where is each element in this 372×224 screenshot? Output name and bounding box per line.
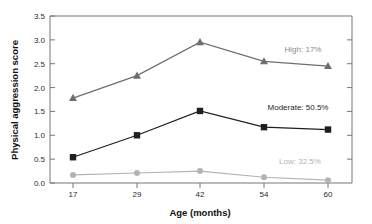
y-tick-label: 1.0 — [34, 131, 46, 140]
series-label-moderate: Moderate: 50.5% — [268, 103, 329, 112]
data-point — [197, 168, 203, 174]
series-low — [70, 168, 331, 183]
data-point — [261, 174, 267, 180]
x-axis-title: Age (months) — [169, 207, 230, 218]
data-point — [70, 154, 76, 160]
series-moderate — [70, 108, 331, 161]
data-point — [133, 71, 141, 78]
x-tick-label: 17 — [69, 190, 78, 199]
y-tick-label: 2.5 — [34, 60, 46, 69]
chart-figure: 0.0 0.5 1.0 1.5 2.0 2.5 3.0 3.5 17 29 42… — [0, 0, 372, 224]
y-tick-label: 1.5 — [34, 107, 46, 116]
data-point — [70, 172, 76, 178]
data-point — [261, 124, 267, 130]
y-tick-label: 0.0 — [34, 179, 46, 188]
series-moderate-line — [73, 111, 328, 157]
line-chart-svg: 0.0 0.5 1.0 1.5 2.0 2.5 3.0 3.5 17 29 42… — [0, 0, 372, 224]
y-axis-title: Physical aggression score — [9, 40, 20, 160]
x-tick-label: 54 — [260, 190, 269, 199]
series-label-low: Low: 32.5% — [279, 157, 321, 166]
x-tick-label: 29 — [133, 190, 142, 199]
y-axis-ticks — [50, 16, 55, 183]
y-tick-label: 3.0 — [34, 36, 46, 45]
y-tick-label: 2.0 — [34, 84, 46, 93]
x-tick-label: 60 — [324, 190, 333, 199]
data-point — [325, 126, 331, 132]
data-point — [196, 38, 204, 45]
series-moderate-markers — [70, 108, 331, 161]
x-tick-label: 42 — [196, 190, 205, 199]
x-axis-tick-labels: 17 29 42 54 60 — [69, 190, 333, 199]
y-tick-label: 0.5 — [34, 155, 46, 164]
y-axis-tick-labels: 0.0 0.5 1.0 1.5 2.0 2.5 3.0 3.5 — [34, 12, 46, 188]
series-low-markers — [70, 168, 331, 183]
data-point — [197, 108, 203, 114]
data-point — [134, 170, 140, 176]
series-label-high: High: 17% — [285, 45, 322, 54]
x-axis-ticks — [73, 183, 328, 188]
y-tick-label: 3.5 — [34, 12, 46, 21]
data-point — [134, 132, 140, 138]
y-axis-ticks-right — [347, 40, 352, 159]
data-point — [325, 177, 331, 183]
